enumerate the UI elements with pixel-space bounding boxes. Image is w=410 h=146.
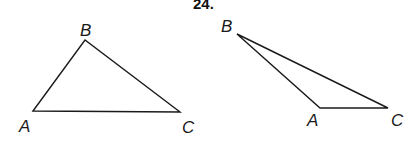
vertex-label-b: B bbox=[80, 21, 91, 40]
vertex-label-b: B bbox=[221, 17, 232, 36]
triangle-right: B A C bbox=[221, 17, 404, 130]
triangle-left: B A C bbox=[18, 21, 195, 137]
triangle-right-outline bbox=[237, 34, 388, 108]
figure-canvas: 24. B A C B A C bbox=[0, 0, 410, 146]
vertex-label-a: A bbox=[306, 111, 318, 130]
vertex-label-c: C bbox=[391, 111, 404, 130]
triangle-left-outline bbox=[33, 40, 180, 112]
vertex-label-a: A bbox=[18, 117, 30, 136]
problem-number: 24. bbox=[193, 0, 214, 12]
vertex-label-c: C bbox=[182, 118, 195, 137]
